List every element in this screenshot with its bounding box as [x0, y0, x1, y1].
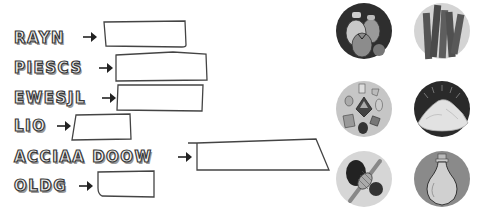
money-bags-icon [334, 1, 394, 61]
answer-box-5[interactable] [186, 137, 332, 174]
oil-flask-icon [412, 149, 472, 209]
answer-box-2[interactable] [113, 50, 210, 83]
arrow-icon [98, 62, 114, 74]
answer-box-4[interactable] [70, 112, 134, 142]
scrambled-word-4: LIO [14, 118, 46, 134]
scrambled-word-2: PIESCS [14, 60, 83, 76]
spice-pile-icon [412, 79, 472, 139]
answer-box-6[interactable] [96, 168, 158, 200]
arrow-icon [78, 180, 94, 192]
wood-sticks-icon [412, 1, 472, 61]
scrambled-word-3: EWESJL [14, 90, 86, 106]
scrambled-word-1: RAYN [14, 30, 65, 46]
yarn-spindle-icon [334, 149, 394, 209]
answer-box-3[interactable] [115, 82, 207, 113]
jewels-icon [334, 79, 394, 139]
answer-box-1[interactable] [102, 19, 188, 49]
scrambled-word-5: ACCIAA DOOW [14, 149, 153, 165]
scrambled-word-6: OLDG [14, 178, 67, 194]
arrow-icon [82, 31, 98, 43]
